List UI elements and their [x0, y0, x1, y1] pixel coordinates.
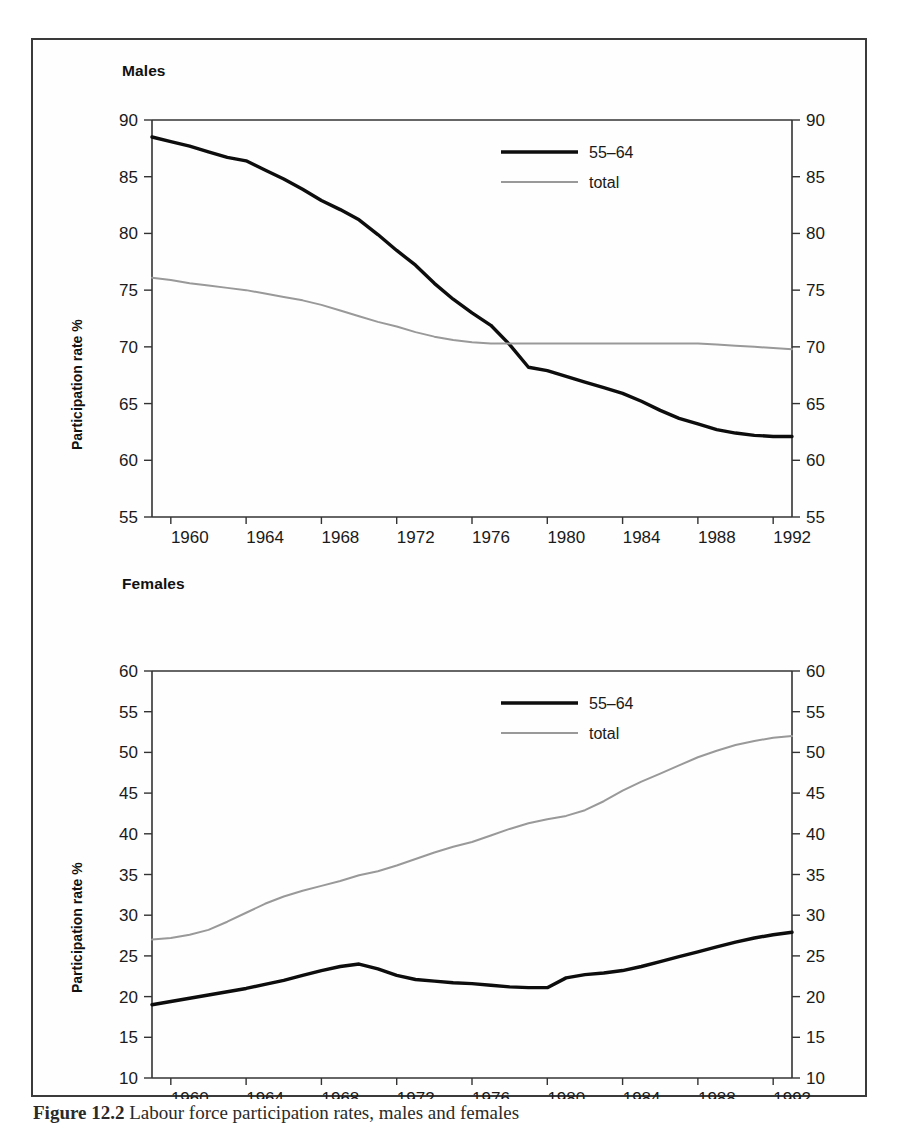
- y-tick-label-left: 40: [119, 825, 138, 844]
- legend-label: total: [589, 174, 619, 191]
- y-tick-label-right: 80: [806, 224, 825, 243]
- plot-area-females: 1010151520202525303035354040454550505555…: [33, 553, 869, 1099]
- y-tick-label-left: 15: [119, 1028, 138, 1047]
- y-tick-label-right: 30: [806, 906, 825, 925]
- x-tick-label: 1968: [321, 528, 359, 547]
- y-tick-label-right: 10: [806, 1069, 825, 1088]
- y-tick-label-right: 55: [806, 508, 825, 527]
- y-tick-label-left: 75: [119, 281, 138, 300]
- x-tick-label: 1960: [171, 1089, 209, 1099]
- y-tick-label-right: 45: [806, 784, 825, 803]
- y-tick-label-right: 50: [806, 743, 825, 762]
- y-tick-label-right: 65: [806, 395, 825, 414]
- figure-caption: Figure 12.2 Labour force participation r…: [33, 1102, 853, 1124]
- y-tick-label-right: 35: [806, 866, 825, 885]
- y-tick-label-left: 45: [119, 784, 138, 803]
- y-tick-label-left: 10: [119, 1069, 138, 1088]
- chart-panel-males: Males Participation rate % 5555606065657…: [33, 40, 869, 560]
- x-tick-label: 1972: [397, 1089, 435, 1099]
- y-tick-label-right: 75: [806, 281, 825, 300]
- legend-label: 55–64: [589, 695, 634, 712]
- y-tick-label-right: 60: [806, 662, 825, 681]
- y-tick-label-left: 60: [119, 451, 138, 470]
- x-tick-label: 1992: [773, 528, 811, 547]
- y-tick-label-left: 25: [119, 947, 138, 966]
- plot-area-males: 5555606065657070757580808585909019601964…: [33, 40, 869, 560]
- chart-panel-females: Females Participation rate % 10101515202…: [33, 553, 869, 1099]
- x-tick-label: 1976: [472, 1089, 510, 1099]
- y-tick-label-left: 85: [119, 168, 138, 187]
- y-tick-label-right: 20: [806, 988, 825, 1007]
- y-tick-label-right: 85: [806, 168, 825, 187]
- y-tick-label-right: 90: [806, 111, 825, 130]
- legend-label: 55–64: [589, 144, 634, 161]
- y-tick-label-right: 70: [806, 338, 825, 357]
- x-tick-label: 1984: [623, 528, 661, 547]
- x-tick-label: 1976: [472, 528, 510, 547]
- y-tick-label-left: 55: [119, 508, 138, 527]
- x-tick-label: 1988: [698, 1089, 736, 1099]
- legend-label: total: [589, 725, 619, 742]
- x-tick-label: 1980: [547, 528, 585, 547]
- y-tick-label-left: 30: [119, 906, 138, 925]
- y-tick-label-right: 55: [806, 703, 825, 722]
- data-line-total: [152, 736, 792, 940]
- y-tick-label-left: 60: [119, 662, 138, 681]
- x-tick-label: 1960: [171, 528, 209, 547]
- y-tick-label-right: 60: [806, 451, 825, 470]
- y-tick-label-left: 35: [119, 866, 138, 885]
- y-tick-label-left: 50: [119, 743, 138, 762]
- y-tick-label-left: 55: [119, 703, 138, 722]
- x-tick-label: 1972: [397, 528, 435, 547]
- x-tick-label: 1964: [246, 528, 284, 547]
- x-tick-label: 1988: [698, 528, 736, 547]
- y-tick-label-right: 40: [806, 825, 825, 844]
- y-tick-label-left: 20: [119, 988, 138, 1007]
- figure-frame: Males Participation rate % 5555606065657…: [31, 38, 867, 1097]
- data-line-5564: [152, 137, 792, 436]
- y-tick-label-left: 65: [119, 395, 138, 414]
- x-tick-label: 1964: [246, 1089, 284, 1099]
- x-tick-label: 1980: [547, 1089, 585, 1099]
- y-tick-label-left: 70: [119, 338, 138, 357]
- data-line-5564: [152, 932, 792, 1004]
- y-tick-label-right: 25: [806, 947, 825, 966]
- y-tick-label-left: 90: [119, 111, 138, 130]
- caption-text: Labour force participation rates, males …: [129, 1102, 519, 1123]
- x-tick-label: 1968: [321, 1089, 359, 1099]
- caption-label: Figure 12.2: [33, 1102, 124, 1123]
- x-tick-label: 1992: [773, 1089, 811, 1099]
- y-tick-label-right: 15: [806, 1028, 825, 1047]
- x-tick-label: 1984: [623, 1089, 661, 1099]
- y-tick-label-left: 80: [119, 224, 138, 243]
